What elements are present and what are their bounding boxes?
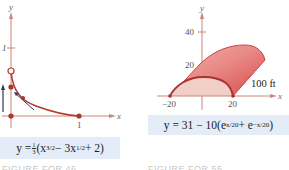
left-graph: 1 y x 1 xyxy=(0,0,145,135)
x-axis-label: x xyxy=(116,111,121,121)
point-20 xyxy=(231,94,235,98)
x-tick-label-20: 20 xyxy=(228,99,238,109)
curve xyxy=(11,72,79,116)
right-graph: y 40 20 x −20 20 100 ft xyxy=(145,0,289,115)
length-annotation: 100 ft xyxy=(251,78,276,89)
formula-mid: − 3x xyxy=(55,142,76,154)
left-formula: y = 1 3 (x3/2 − 3x1/2 + 2) xyxy=(0,137,120,159)
y-tick-label-20: 20 xyxy=(185,60,195,70)
y-axis-arrow-icon xyxy=(9,12,13,19)
point-x1 xyxy=(76,113,81,118)
x-axis-label: x xyxy=(277,91,282,101)
x-axis-arrow-icon xyxy=(109,114,116,118)
y-axis-label: y xyxy=(199,3,204,13)
formula-mid: + e xyxy=(238,119,252,131)
point-neg20 xyxy=(168,94,172,98)
open-point xyxy=(8,68,14,74)
formula-suffix: ) xyxy=(269,119,273,131)
y-axis-arrow-icon xyxy=(200,12,204,19)
fraction-denominator: 3 xyxy=(32,149,35,155)
point-y-intercept xyxy=(8,84,13,89)
right-caption: FIGURE FOR 55 xyxy=(148,164,223,170)
y-tick-label-1: 1 xyxy=(2,43,7,53)
left-caption: FIGURE FOR 46 xyxy=(2,164,77,170)
tangent-arrow xyxy=(15,93,34,110)
y-tick-label-40: 40 xyxy=(185,27,195,37)
y-axis-label: y xyxy=(8,2,13,12)
point-origin xyxy=(8,113,13,118)
x-axis-arrow-icon xyxy=(270,94,277,98)
vertical-arrow-head-icon xyxy=(1,84,5,90)
right-formula: y = 31 − 10(ex/20 + e−x/20) xyxy=(148,115,289,135)
right-figure: y 40 20 x −20 20 100 ft xyxy=(145,0,289,115)
x-tick-label-neg20: −20 xyxy=(162,99,177,109)
formula-prefix: y = 31 − 10(e xyxy=(164,119,226,131)
formula-open: (x xyxy=(37,142,47,154)
formula-suffix: + 2) xyxy=(85,142,104,154)
left-figure: 1 y x 1 xyxy=(0,0,145,135)
point-on-curve xyxy=(21,96,25,100)
formula-prefix: y = xyxy=(16,142,31,154)
x-tick-label-1: 1 xyxy=(77,120,82,130)
fraction: 1 3 xyxy=(32,142,35,155)
